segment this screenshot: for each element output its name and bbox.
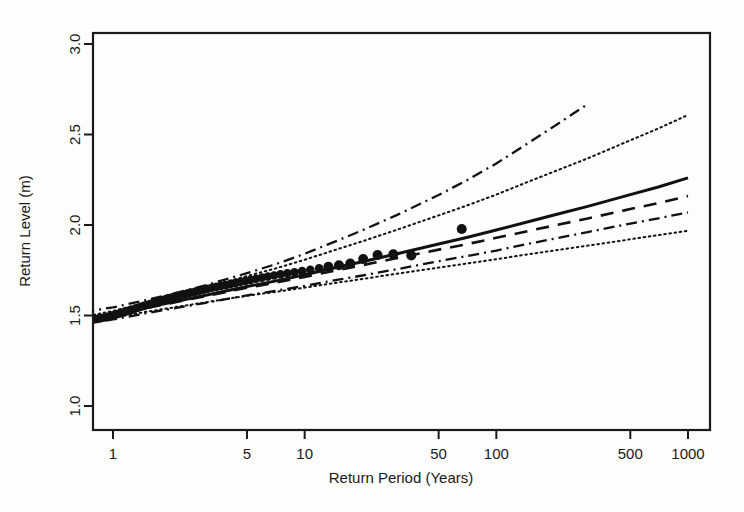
y-axis: 1.01.52.02.53.0	[66, 34, 93, 417]
data-point	[298, 267, 307, 276]
x-tick-label: 5	[243, 445, 251, 462]
y-axis-title: Return Level (m)	[16, 175, 33, 287]
data-point	[306, 265, 315, 274]
data-point	[323, 262, 333, 272]
series-line-1	[83, 196, 688, 321]
y-tick-label: 2.5	[66, 124, 83, 145]
data-point	[345, 259, 355, 269]
x-tick-label: 500	[618, 445, 643, 462]
x-tick-label: 1	[109, 445, 117, 462]
series-line-2	[83, 115, 688, 317]
y-tick-label: 1.5	[66, 305, 83, 326]
return-level-plot: 1510501005001000 1.01.52.02.53.0 Return …	[0, 0, 744, 512]
data-point	[388, 249, 398, 259]
data-point	[334, 260, 344, 270]
x-tick-label: 100	[484, 445, 509, 462]
x-tick-label: 1000	[671, 445, 704, 462]
plot-frame	[93, 33, 710, 430]
series-line-5	[83, 212, 688, 324]
x-tick-label: 10	[296, 445, 313, 462]
y-tick-label: 1.0	[66, 396, 83, 417]
y-tick-label: 3.0	[66, 34, 83, 55]
data-point	[373, 250, 383, 260]
data-point	[406, 250, 416, 260]
y-tick-label: 2.0	[66, 215, 83, 236]
data-point	[283, 269, 292, 278]
x-axis: 1510501005001000	[109, 430, 705, 462]
scatter-layer	[81, 224, 466, 325]
data-point	[457, 224, 467, 234]
series-layer	[83, 104, 688, 324]
x-axis-title: Return Period (Years)	[329, 469, 474, 486]
data-point	[315, 264, 324, 273]
chart-page: 1510501005001000 1.01.52.02.53.0 Return …	[0, 0, 744, 512]
data-point	[290, 268, 299, 277]
data-point	[358, 254, 368, 264]
x-tick-label: 50	[430, 445, 447, 462]
